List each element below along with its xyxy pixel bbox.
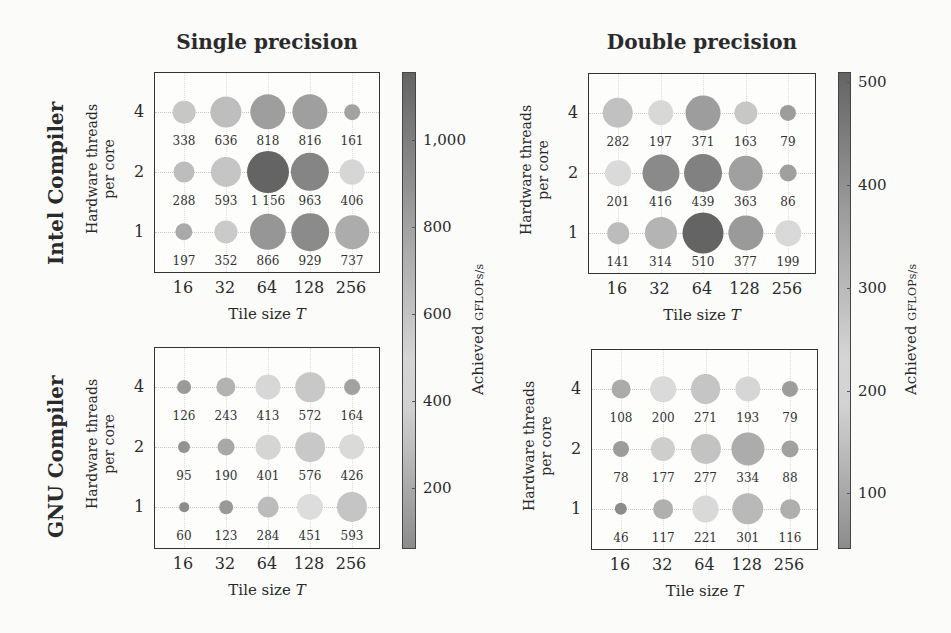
data-bubble <box>732 493 763 524</box>
data-value-label: 117 <box>652 531 675 545</box>
data-bubble <box>216 377 235 396</box>
data-bubble <box>735 376 760 401</box>
colorbar-tick <box>847 185 851 186</box>
data-value-label: 816 <box>299 134 322 148</box>
colorbar-label-unit: GFLOPs/s <box>906 263 919 320</box>
data-bubble <box>780 105 796 121</box>
colorbar-tick <box>847 493 851 494</box>
x-axis-label: Tile size T <box>228 305 305 323</box>
data-bubble <box>219 500 233 514</box>
data-bubble <box>780 499 800 519</box>
data-value-label: 1 156 <box>251 194 285 208</box>
data-bubble <box>607 222 629 244</box>
data-bubble <box>686 96 721 131</box>
data-bubble <box>605 160 631 186</box>
x-tick-label: 16 <box>607 279 627 298</box>
colorbar-tick-label: 400 <box>858 176 887 194</box>
data-value-label: 95 <box>176 469 191 483</box>
y-axis-label: Hardware threadsper core <box>84 379 118 509</box>
colorbar-tick-label: 300 <box>858 279 887 297</box>
y-axis-label: Hardware threadsper core <box>84 104 118 234</box>
x-tick-label: 32 <box>215 554 235 573</box>
colorbar-single <box>402 72 416 549</box>
column-title-single: Single precision <box>137 30 397 54</box>
data-value-label: 201 <box>607 195 630 209</box>
data-value-label: 866 <box>257 254 280 268</box>
y-tick-label: 2 <box>134 162 144 181</box>
data-bubble <box>178 441 190 453</box>
y-tick-label: 1 <box>571 499 581 518</box>
colorbar-tick-label: 800 <box>423 218 452 236</box>
x-axis-label: Tile size T <box>663 306 740 324</box>
data-bubble <box>291 153 329 191</box>
data-bubble <box>214 220 237 243</box>
y-axis-label: Hardware threadsper core <box>521 381 555 511</box>
data-value-label: 79 <box>782 411 797 425</box>
x-tick-label: 256 <box>772 279 803 298</box>
x-tick-label: 128 <box>731 555 762 574</box>
row-title-intel: Intel Compiler <box>44 102 68 265</box>
panel-gnu-double: 1082002711937978177277334884611722130111… <box>591 349 818 550</box>
data-value-label: 426 <box>341 469 364 483</box>
colorbar-tick-label: 200 <box>858 382 887 400</box>
data-value-label: 199 <box>777 255 800 269</box>
data-value-label: 284 <box>257 529 280 543</box>
colorbar-tick <box>847 82 851 83</box>
panel-intel-double: 2821973711637920141643936386141314510377… <box>588 73 816 274</box>
data-bubble <box>174 162 195 183</box>
x-tick-label: 16 <box>610 555 630 574</box>
y-tick-label: 1 <box>134 222 144 241</box>
y-tick-label: 1 <box>134 497 144 516</box>
colorbar-label-text: Achieved <box>469 321 487 395</box>
data-value-label: 371 <box>692 135 715 149</box>
data-value-label: 451 <box>299 529 322 543</box>
data-bubble <box>690 434 720 464</box>
y-tick-label: 4 <box>571 379 581 398</box>
data-value-label: 288 <box>173 194 196 208</box>
data-value-label: 413 <box>257 409 280 423</box>
data-value-label: 439 <box>692 195 715 209</box>
data-bubble <box>295 432 325 462</box>
data-value-label: 164 <box>341 409 364 423</box>
data-bubble <box>217 438 234 455</box>
data-bubble <box>177 380 191 394</box>
colorbar-tick-label: 100 <box>858 484 887 502</box>
data-bubble <box>781 440 798 457</box>
y-tick-label: 2 <box>568 163 578 182</box>
data-value-label: 193 <box>736 411 759 425</box>
data-value-label: 401 <box>257 469 280 483</box>
data-value-label: 277 <box>694 471 717 485</box>
data-bubble <box>684 154 722 192</box>
data-bubble <box>339 434 364 459</box>
data-bubble <box>340 160 365 185</box>
data-bubble <box>782 381 798 397</box>
x-tick-label: 32 <box>652 555 672 574</box>
data-bubble <box>691 374 721 404</box>
data-value-label: 737 <box>341 254 364 268</box>
x-tick-label: 32 <box>649 279 669 298</box>
y-tick-label: 4 <box>134 377 144 396</box>
y-tick-label: 4 <box>134 102 144 121</box>
data-value-label: 576 <box>299 469 322 483</box>
colorbar-double <box>838 72 851 549</box>
x-tick-label: 256 <box>774 555 805 574</box>
data-value-label: 334 <box>736 471 759 485</box>
data-value-label: 301 <box>736 531 759 545</box>
data-bubble <box>692 496 719 523</box>
data-bubble <box>250 94 285 129</box>
data-bubble <box>291 213 329 251</box>
data-value-label: 161 <box>341 134 364 148</box>
data-value-label: 314 <box>649 255 672 269</box>
colorbar-tick <box>412 401 416 402</box>
data-value-label: 123 <box>215 529 238 543</box>
data-bubble <box>683 213 724 254</box>
data-bubble <box>175 223 192 240</box>
x-tick-label: 128 <box>294 554 325 573</box>
colorbar-tick <box>847 391 851 392</box>
data-value-label: 163 <box>734 135 757 149</box>
data-value-label: 46 <box>613 531 628 545</box>
data-value-label: 141 <box>607 255 630 269</box>
x-tick-label: 64 <box>257 554 277 573</box>
data-value-label: 177 <box>652 471 675 485</box>
data-bubble <box>653 499 673 519</box>
